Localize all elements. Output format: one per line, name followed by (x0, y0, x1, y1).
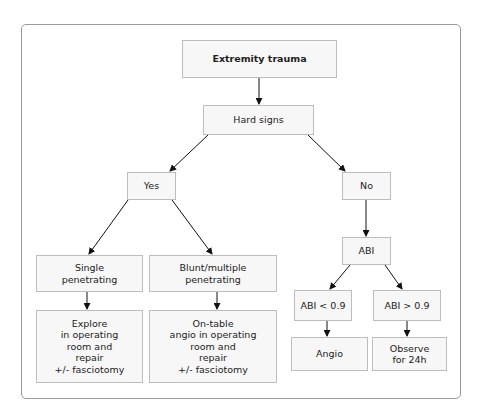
edge-abi-low (330, 265, 350, 289)
node-observe-24h: Observe for 24h (372, 337, 447, 371)
edge-yes-single (89, 200, 128, 254)
node-abi-less-than: ABI < 0.9 (294, 290, 352, 321)
node-no: No (342, 172, 391, 200)
edge-yes-blunt (172, 200, 212, 254)
node-single-penetrating: Single penetrating (36, 255, 143, 292)
edge-abi-high (385, 265, 402, 289)
node-blunt-multiple-penetrating: Blunt/multiple penetrating (149, 255, 277, 292)
node-explore-repair: Explore in operating room and repair +/-… (36, 310, 143, 383)
node-extremity-trauma: Extremity trauma (182, 40, 337, 78)
node-on-table-angio: On-table angio in operating room and rep… (149, 310, 277, 383)
node-abi-greater-than: ABI > 0.9 (373, 290, 441, 321)
node-yes: Yes (127, 172, 176, 200)
node-hard-signs: Hard signs (203, 105, 314, 135)
edge-hardsigns-yes (170, 135, 208, 171)
node-abi: ABI (342, 237, 391, 265)
node-angio: Angio (291, 337, 368, 371)
edge-hardsigns-no (308, 135, 345, 171)
